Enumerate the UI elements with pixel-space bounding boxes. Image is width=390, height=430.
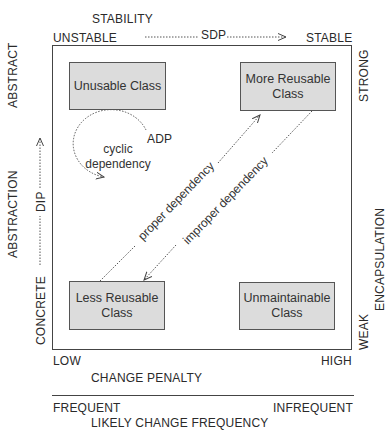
- low-label: LOW: [53, 354, 81, 368]
- likely-change-frequency-title: LIKELY CHANGE FREQUENCY: [91, 416, 269, 430]
- high-label: HIGH: [321, 354, 352, 368]
- change-penalty-title: CHANGE PENALTY: [91, 371, 202, 385]
- frequency-axis-line: [52, 395, 354, 396]
- cyclic-dependency-arrow: [73, 110, 146, 177]
- infrequent-label: INFREQUENT: [273, 401, 353, 415]
- improper-dependency-label: improper dependency: [180, 154, 271, 247]
- frequent-label: FREQUENT: [53, 401, 121, 415]
